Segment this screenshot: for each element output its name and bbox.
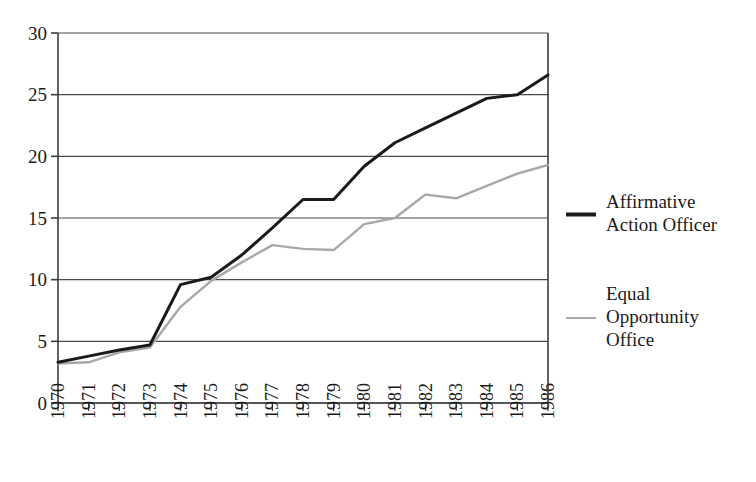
x-tick-label-1982: 1982 — [416, 383, 436, 419]
x-tick-label-1970: 1970 — [48, 383, 68, 419]
y-tick-label: 15 — [28, 208, 47, 229]
x-tick-label-1977: 1977 — [262, 383, 282, 419]
line-chart: 051015202530 197019711972197319741975197… — [0, 0, 756, 482]
legend-label-2-line-3: Office — [606, 329, 654, 350]
y-tick-label: 30 — [28, 23, 47, 44]
x-tick-label-1972: 1972 — [109, 383, 129, 419]
y-tick-label: 0 — [38, 393, 48, 414]
y-tick-label: 20 — [28, 146, 47, 167]
legend-label-2-line-2: Opportunity — [606, 306, 699, 327]
y-tick-label: 25 — [28, 84, 47, 105]
x-tick-label-1983: 1983 — [446, 383, 466, 419]
x-tick-label-1984: 1984 — [477, 383, 497, 419]
legend-label-2-line-1: Equal — [606, 283, 650, 304]
x-tick-label-1974: 1974 — [171, 383, 191, 419]
y-tick-label: 5 — [38, 331, 48, 352]
legend-label-1-line-2: Action Officer — [606, 214, 718, 235]
x-tick-label-1971: 1971 — [79, 383, 99, 419]
y-tick-label: 10 — [28, 269, 47, 290]
x-tick-label-1975: 1975 — [201, 383, 221, 419]
legend-label-1-line-1: Affirmative — [606, 191, 695, 212]
x-tick-label-1978: 1978 — [293, 383, 313, 419]
x-tick-label-1985: 1985 — [507, 383, 527, 419]
chart-canvas: 051015202530 197019711972197319741975197… — [0, 0, 756, 482]
x-tick-label-1973: 1973 — [140, 383, 160, 419]
x-tick-label-1981: 1981 — [385, 383, 405, 419]
x-axis-tick-labels: 1970197119721973197419751976197719781979… — [48, 383, 558, 419]
x-tick-label-1980: 1980 — [354, 383, 374, 419]
x-tick-label-1979: 1979 — [324, 383, 344, 419]
x-tick-label-1976: 1976 — [232, 383, 252, 419]
